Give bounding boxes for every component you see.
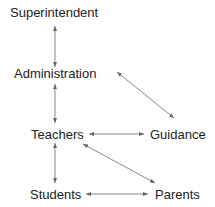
org-diagram: Superintendent Administration Teachers G…	[0, 0, 215, 207]
arrow-administration-guidance	[117, 72, 174, 118]
node-superintendent: Superintendent	[10, 5, 98, 20]
node-teachers: Teachers	[31, 127, 84, 142]
arrows-layer	[0, 0, 215, 207]
node-students: Students	[30, 187, 81, 202]
node-administration: Administration	[14, 66, 96, 81]
node-parents: Parents	[155, 187, 200, 202]
node-guidance: Guidance	[150, 127, 206, 142]
arrow-teachers-parents	[83, 144, 155, 183]
